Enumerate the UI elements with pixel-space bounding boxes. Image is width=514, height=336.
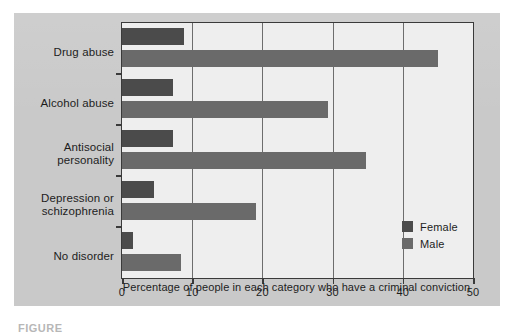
legend: Female Male <box>402 219 458 253</box>
legend-label-male: Male <box>420 238 445 250</box>
bar-female-antisocial-personality <box>122 130 173 147</box>
legend-item-male[interactable]: Male <box>402 236 458 251</box>
category-axis-labels: Drug abuse Alcohol abuse Antisocial pers… <box>14 22 114 277</box>
category-label-antisocial-personality: Antisocial personality <box>57 141 114 167</box>
category-label-depression-or-schizophrenia: Depression or schizophrenia <box>41 192 114 218</box>
bar-female-no-disorder <box>122 232 133 249</box>
legend-swatch-male-icon <box>402 238 413 249</box>
bar-female-depression-or-schizophrenia <box>122 181 154 198</box>
category-tick-4 <box>116 226 122 228</box>
bar-male-antisocial-personality <box>122 152 366 169</box>
category-tick-2 <box>116 124 122 126</box>
category-label-no-disorder: No disorder <box>53 250 114 263</box>
x-axis-title: Percentage of people in each category wh… <box>121 281 472 293</box>
plot-area: Female Male 0 10 20 30 40 50 <box>121 22 474 279</box>
category-tick-1 <box>116 73 122 75</box>
bar-male-depression-or-schizophrenia <box>122 203 256 220</box>
bar-female-drug-abuse <box>122 28 184 45</box>
bar-male-no-disorder <box>122 254 181 271</box>
bar-male-drug-abuse <box>122 50 438 67</box>
xtick-mark-50 <box>473 278 475 284</box>
bar-female-alcohol-abuse <box>122 79 173 96</box>
legend-item-female[interactable]: Female <box>402 219 458 234</box>
category-label-drug-abuse: Drug abuse <box>54 46 114 59</box>
bar-male-alcohol-abuse <box>122 101 328 118</box>
figure-container: Drug abuse Alcohol abuse Antisocial pers… <box>0 0 514 336</box>
legend-swatch-female-icon <box>402 221 413 232</box>
category-label-alcohol-abuse: Alcohol abuse <box>40 97 114 110</box>
legend-label-female: Female <box>420 221 458 233</box>
category-tick-3 <box>116 175 122 177</box>
figure-caption-partial: FIGURE <box>18 322 63 333</box>
